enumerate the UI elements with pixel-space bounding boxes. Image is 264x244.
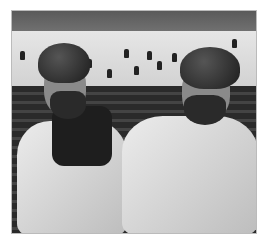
right-man-beard bbox=[184, 95, 226, 125]
skater bbox=[20, 51, 25, 60]
skater bbox=[172, 53, 177, 62]
skater bbox=[147, 51, 152, 60]
skater bbox=[134, 66, 139, 75]
right-man-turban bbox=[180, 47, 240, 89]
skater bbox=[124, 49, 129, 58]
skater bbox=[107, 69, 112, 78]
left-man-turban bbox=[38, 43, 90, 83]
photo bbox=[11, 10, 257, 234]
rink-boards bbox=[12, 11, 256, 31]
skater bbox=[232, 39, 237, 48]
skater bbox=[157, 61, 162, 70]
left-man-beard bbox=[50, 91, 86, 119]
right-man-shirt bbox=[122, 116, 257, 234]
